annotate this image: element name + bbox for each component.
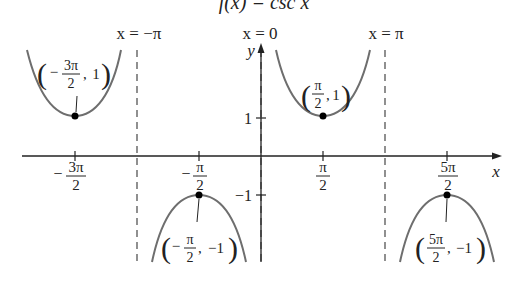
svg-text:π: π: [186, 232, 193, 247]
x-axis-label: x: [491, 162, 500, 181]
svg-text:2: 2: [72, 177, 80, 193]
svg-text:5π: 5π: [440, 159, 456, 175]
svg-text:2: 2: [196, 177, 204, 193]
x-axis-arrow-icon: [492, 153, 502, 160]
asymptote-label-pi: x = π: [368, 24, 404, 43]
svg-text:(: (: [415, 231, 425, 265]
svg-text:3π: 3π: [68, 159, 84, 175]
svg-text:2: 2: [68, 76, 75, 91]
svg-text:3π: 3π: [64, 58, 78, 73]
point-neg-pi-2: [196, 192, 203, 199]
svg-text:,: ,: [447, 240, 451, 256]
svg-text:): ): [341, 79, 351, 113]
y-tick-label-1: 1: [244, 110, 252, 127]
x-tick-label-pi-2: π 2: [316, 159, 330, 193]
point-neg-3pi-2: [72, 113, 79, 120]
svg-text:2: 2: [444, 177, 452, 193]
annotation-5pi-2: ( 5π 2 , −1 ): [415, 231, 486, 265]
point-5pi-2: [444, 192, 451, 199]
leader-line-2: [197, 199, 199, 222]
svg-text:1: 1: [332, 87, 340, 103]
svg-text:2: 2: [315, 96, 322, 111]
asymptote-label-neg-pi: x = −π: [117, 24, 162, 43]
chart-title: f(x) = csc x: [219, 0, 310, 14]
svg-text:5π: 5π: [429, 232, 443, 247]
svg-text:−: −: [181, 165, 190, 182]
svg-text:): ): [101, 57, 111, 91]
svg-text:): ): [228, 231, 238, 265]
leader-line-1: [76, 96, 77, 112]
x-tick-label-neg-pi-2: − π 2: [181, 159, 207, 193]
svg-text:1: 1: [92, 66, 100, 82]
svg-text:,: ,: [198, 240, 202, 256]
svg-text:): ): [476, 231, 486, 265]
annotation-neg-pi-2: ( − π 2 , −1 ): [161, 231, 238, 265]
svg-text:π: π: [314, 78, 321, 93]
x-tick-label-5pi-2: 5π 2: [438, 159, 458, 193]
annotation-pi-2: ( π 2 , 1 ): [301, 78, 351, 113]
x-tick-label-neg-3pi-2: − 3π 2: [53, 159, 86, 193]
svg-text:−1: −1: [456, 240, 472, 256]
svg-text:,: ,: [326, 87, 330, 103]
csc-graph: f(x) = csc x x = −π x = 0 x = π x y 1 −1…: [0, 0, 516, 297]
svg-text:2: 2: [433, 250, 440, 265]
annotation-neg-3pi-2: ( − 3π 2 , 1 ): [37, 57, 111, 91]
svg-text:π: π: [196, 159, 204, 175]
curve-branch-3: [276, 50, 370, 116]
svg-text:(: (: [301, 79, 311, 113]
svg-text:(: (: [37, 57, 47, 91]
svg-text:(: (: [161, 231, 171, 265]
svg-text:−: −: [172, 238, 180, 254]
svg-text:−: −: [50, 64, 58, 80]
y-axis-arrow-icon: [258, 43, 265, 53]
svg-text:2: 2: [187, 250, 194, 265]
svg-text:2: 2: [319, 177, 327, 193]
svg-text:π: π: [319, 159, 327, 175]
point-pi-2: [320, 113, 327, 120]
svg-text:−1: −1: [208, 240, 224, 256]
leader-line-4: [446, 199, 447, 222]
svg-text:,: ,: [83, 66, 87, 82]
svg-text:−: −: [53, 165, 62, 182]
y-axis-label: y: [245, 41, 255, 60]
y-tick-label-neg1: −1: [235, 187, 252, 204]
